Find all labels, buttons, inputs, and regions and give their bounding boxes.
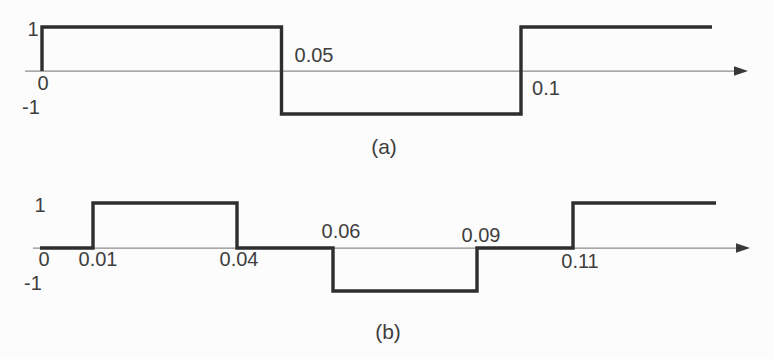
x-tick-label: 0.11 — [561, 250, 598, 272]
caption-a: (a) — [352, 135, 416, 159]
caption-b: (b) — [356, 320, 420, 344]
axis-arrow-icon — [736, 243, 750, 253]
y-tick-label: -1 — [24, 272, 42, 294]
x-tick-label: 0 — [37, 72, 48, 94]
x-tick-label: 0.09 — [462, 224, 501, 246]
x-tick-label: 0.01 — [79, 248, 118, 270]
axis-arrow-icon — [734, 66, 748, 76]
y-tick-label: 1 — [34, 194, 45, 216]
x-tick-label: 0.1 — [532, 77, 560, 99]
y-tick-label: 1 — [27, 18, 38, 40]
x-tick-label: 0.06 — [322, 220, 361, 242]
waveform-trace — [40, 203, 716, 291]
x-tick-label: 0.05 — [295, 44, 334, 66]
x-tick-label: 0 — [38, 248, 49, 270]
y-tick-label: -1 — [22, 96, 40, 118]
figure-canvas: 1-100.050.1 (a) 1-100.010.040.060.090.11… — [0, 0, 773, 359]
x-tick-label: 0.04 — [220, 248, 259, 270]
